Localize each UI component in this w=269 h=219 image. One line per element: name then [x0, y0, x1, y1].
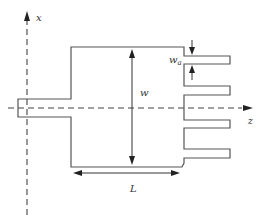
- finger-width-label: wa: [169, 54, 182, 67]
- x-axis-arrow-icon: [24, 11, 30, 21]
- finger-width-arrow-bottom-icon: [189, 65, 195, 73]
- antenna-outline: [18, 47, 230, 167]
- z-axis-arrow-icon: [243, 105, 253, 111]
- width-arrow-bottom-icon: [129, 156, 135, 165]
- finger-width-arrow-top-icon: [189, 47, 195, 55]
- antenna-diagram: x z w L wa: [0, 0, 269, 219]
- x-axis-label: x: [36, 12, 42, 23]
- width-label: w: [140, 87, 149, 98]
- length-arrow-right-icon: [171, 170, 180, 176]
- length-label: L: [129, 183, 137, 194]
- length-arrow-left-icon: [73, 170, 82, 176]
- z-axis-label: z: [247, 116, 253, 126]
- width-arrow-top-icon: [129, 49, 135, 58]
